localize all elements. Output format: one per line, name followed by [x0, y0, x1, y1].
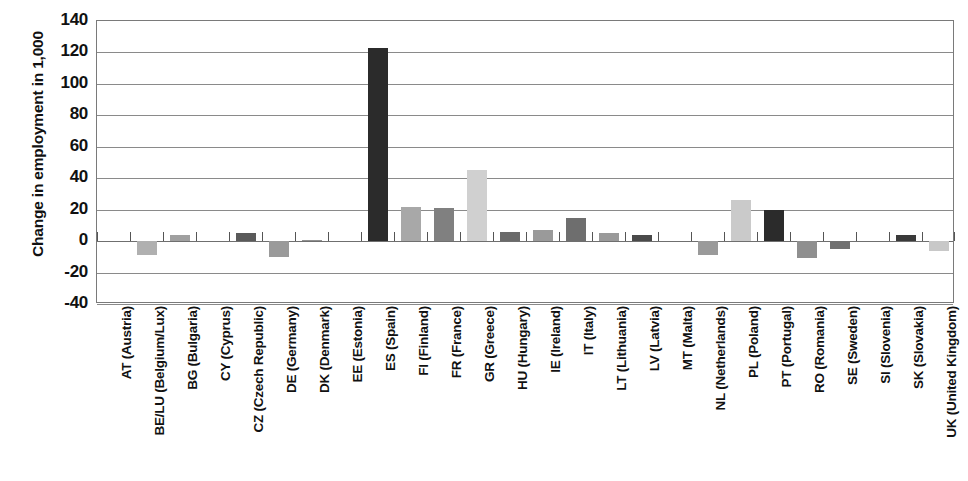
x-axis-tick [130, 232, 131, 241]
x-axis-tick [724, 232, 725, 241]
bars-layer [97, 21, 953, 302]
x-axis-tick [229, 232, 230, 241]
x-tick-label: UK (United Kingdom) [944, 306, 959, 438]
x-axis-tick [394, 232, 395, 241]
x-tick-label: MT (Malta) [680, 306, 695, 370]
x-axis-tick [460, 232, 461, 241]
bar-slot [163, 21, 196, 302]
bar-slot [328, 21, 361, 302]
bar-slot [361, 21, 394, 302]
x-tick-label: LV (Latvia) [647, 306, 662, 371]
x-tick-label: SI (Slovenia) [878, 306, 893, 384]
x-tick-label: SK (Slovakia) [911, 306, 926, 389]
bar-slot [196, 21, 229, 302]
x-tick-label: DE (Germany) [284, 306, 299, 393]
bar-slot [658, 21, 691, 302]
bar[interactable] [731, 200, 751, 241]
bar[interactable] [632, 235, 652, 241]
x-axis-tick [954, 232, 955, 241]
x-axis-tick [889, 232, 890, 241]
x-axis-tick [823, 232, 824, 241]
bar-slot [592, 21, 625, 302]
x-axis-tick-labels: AT (Austria)BE/LU (Belgium/Lux)BG (Bulga… [96, 306, 954, 481]
bar[interactable] [236, 233, 256, 241]
bar-slot [856, 21, 889, 302]
x-tick-label: BG (Bulgaria) [185, 306, 200, 390]
x-tick-label: FR (France) [449, 306, 464, 378]
x-axis-tick [922, 232, 923, 241]
x-tick-label: AT (Austria) [119, 306, 134, 379]
x-tick-label: CZ (Czech Republic) [251, 306, 266, 433]
bar[interactable] [764, 210, 784, 241]
bar-slot [823, 21, 856, 302]
bar-slot [295, 21, 328, 302]
x-tick-label: NL (Netherlands) [713, 306, 728, 411]
x-tick-label: IE (Ireland) [548, 306, 563, 373]
x-tick-label: LT (Lithuania) [614, 306, 629, 391]
x-axis-tick [361, 232, 362, 241]
x-tick-label: RO (Romania) [812, 306, 827, 393]
bar-slot [724, 21, 757, 302]
y-tick-label: 40 [26, 167, 88, 187]
bar[interactable] [467, 170, 487, 241]
bar[interactable] [434, 208, 454, 241]
gridline [97, 304, 953, 305]
x-tick-label: GR (Greece) [482, 306, 497, 382]
x-axis-tick [328, 232, 329, 241]
bar-slot [790, 21, 823, 302]
x-axis-tick [856, 232, 857, 241]
x-axis-tick [592, 232, 593, 241]
bar[interactable] [830, 241, 850, 249]
x-axis-tick [691, 232, 692, 241]
x-tick-label: DK (Denmark) [317, 306, 332, 393]
bar-slot [97, 21, 130, 302]
bar[interactable] [269, 241, 289, 257]
bar-chart: Change in employment in 1,000 1401201008… [0, 0, 968, 481]
x-axis-tick [526, 232, 527, 241]
bar[interactable] [896, 235, 916, 241]
x-axis-tick [559, 232, 560, 241]
x-axis-tick [196, 232, 197, 241]
bar[interactable] [929, 241, 949, 250]
x-tick-label: FI (Finland) [416, 306, 431, 376]
y-tick-label: 100 [26, 73, 88, 93]
y-tick-label: 20 [26, 199, 88, 219]
y-axis-tick-labels: 140120100806040200-20-40 [26, 0, 88, 310]
bar[interactable] [368, 48, 388, 241]
x-axis-tick [295, 232, 296, 241]
bar-slot [625, 21, 658, 302]
x-axis-tick [427, 232, 428, 241]
y-tick-label: 0 [26, 230, 88, 250]
x-tick-label: ES (Spain) [383, 306, 398, 371]
x-tick-label: PT (Portugal) [779, 306, 794, 388]
bar-slot [559, 21, 592, 302]
y-tick-label: -20 [26, 262, 88, 282]
bar[interactable] [302, 240, 322, 242]
bar[interactable] [500, 232, 520, 241]
bar-slot [460, 21, 493, 302]
x-axis-tick [625, 232, 626, 241]
bar-slot [691, 21, 724, 302]
x-tick-label: CY (Cyprus) [218, 306, 233, 381]
bar[interactable] [401, 207, 421, 242]
y-tick-label: 80 [26, 104, 88, 124]
x-tick-label: SE (Sweden) [845, 306, 860, 385]
x-tick-label: EE (Estonia) [350, 306, 365, 383]
bar[interactable] [698, 241, 718, 255]
bar-slot [757, 21, 790, 302]
bar[interactable] [170, 235, 190, 241]
x-tick-label: IT (Italy) [581, 306, 596, 355]
bar-slot [493, 21, 526, 302]
bar[interactable] [137, 241, 157, 255]
x-tick-label: PL (Poland) [746, 306, 761, 378]
bar[interactable] [797, 241, 817, 258]
bar[interactable] [533, 230, 553, 241]
bar[interactable] [566, 218, 586, 242]
bar[interactable] [599, 233, 619, 241]
bar-slot [922, 21, 955, 302]
bar-slot [262, 21, 295, 302]
x-tick-label: BE/LU (Belgium/Lux) [152, 306, 167, 436]
plot-area [96, 20, 954, 303]
x-axis-tick [97, 232, 98, 241]
y-tick-label: 140 [26, 10, 88, 30]
